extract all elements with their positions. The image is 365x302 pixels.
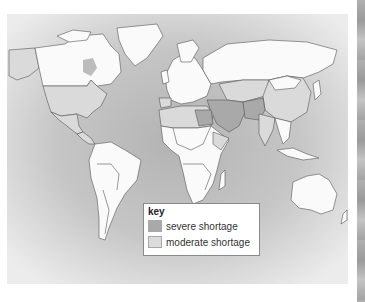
legend-item-severe: severe shortage <box>148 218 255 234</box>
severe-swatch <box>148 220 162 232</box>
map-legend: key severe shortage moderate shortage <box>143 203 260 256</box>
legend-label-severe: severe shortage <box>166 221 238 232</box>
region-spain <box>159 98 171 108</box>
moderate-swatch <box>148 236 162 248</box>
legend-title: key <box>148 206 255 218</box>
page-edge-strip <box>357 0 365 302</box>
legend-label-moderate: moderate shortage <box>166 237 250 248</box>
legend-item-moderate: moderate shortage <box>148 234 255 250</box>
